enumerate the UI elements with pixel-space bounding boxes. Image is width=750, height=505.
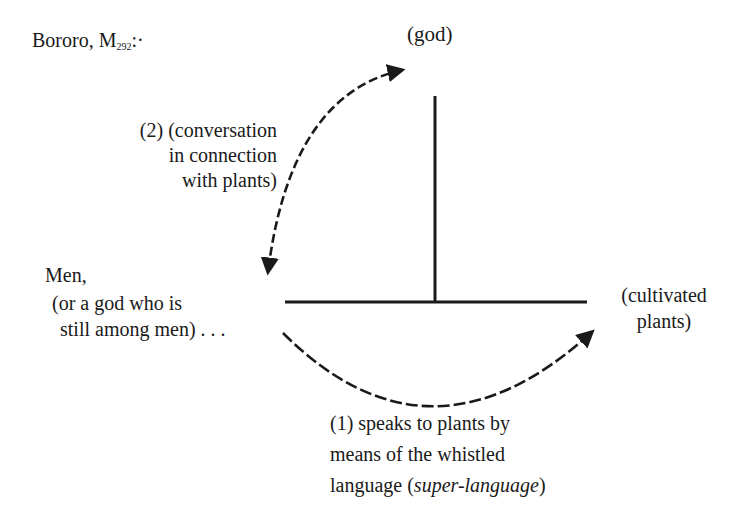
lower-arrow-label: (1) speaks to plants by means of the whi… xyxy=(330,408,590,501)
upper-arrow-label: (2) (conversation in connection with pla… xyxy=(112,118,277,193)
upper-dashed-arc-icon xyxy=(268,70,402,272)
node-god: (god) xyxy=(407,22,453,47)
diagram-canvas: Bororo, M292:· (god) (2) (conversation i… xyxy=(0,0,750,505)
node-men: Men, xyxy=(45,263,87,288)
node-men-subtitle: (or a god who is still among men) . . . xyxy=(52,290,272,342)
node-cultivated-plants: (cultivated plants) xyxy=(605,282,723,334)
lower-dashed-arc-icon xyxy=(283,332,592,406)
diagram-title: Bororo, M292:· xyxy=(32,28,144,59)
